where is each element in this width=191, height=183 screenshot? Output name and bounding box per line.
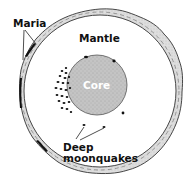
- label-deep-moonquakes-line2: moonquakes: [63, 152, 138, 164]
- moon-interior-diagram: Maria Mantle Core Deep moonquakes: [0, 0, 191, 183]
- label-mantle: Mantle: [79, 32, 120, 44]
- label-maria: Maria: [13, 17, 46, 29]
- label-core: Core: [83, 79, 110, 91]
